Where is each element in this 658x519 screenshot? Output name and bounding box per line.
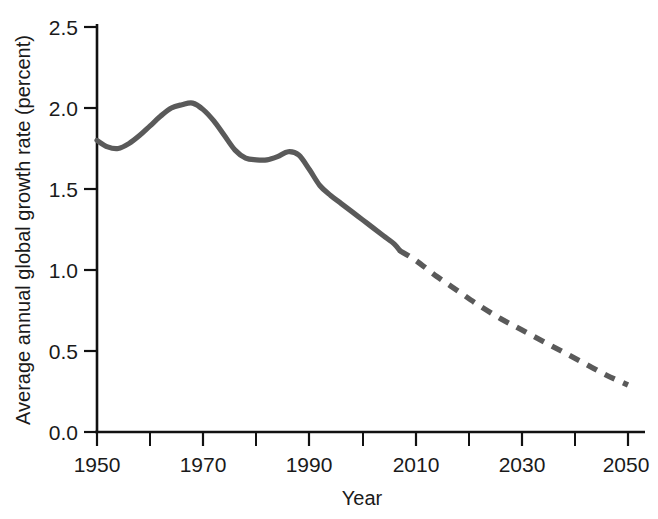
series-line-estimated (97, 103, 400, 251)
y-tick-label-5: 2.5 (49, 16, 78, 39)
y-tick-label-1: 0.5 (49, 340, 78, 363)
x-tick-label-1970: 1970 (180, 453, 227, 476)
y-axis-label: Average annual global growth rate (perce… (12, 35, 34, 425)
chart-svg: Average annual global growth rate (perce… (0, 0, 658, 519)
x-tick-label-2030: 2030 (499, 453, 546, 476)
x-tick-label-1990: 1990 (286, 453, 333, 476)
y-tick-label-2: 1.0 (49, 259, 78, 282)
y-tick-label-0: 0.0 (49, 421, 78, 444)
x-axis-label: Year (342, 487, 383, 509)
y-tick-label-3: 1.5 (49, 178, 78, 201)
y-tick-marks (84, 27, 97, 432)
x-tick-label-2010: 2010 (393, 453, 440, 476)
x-tick-marks-minor (150, 432, 575, 446)
growth-rate-line-chart: Average annual global growth rate (perce… (0, 0, 658, 519)
x-tick-label-2050: 2050 (603, 453, 650, 476)
series-line-projected (400, 251, 628, 385)
y-tick-label-4: 2.0 (49, 97, 78, 120)
x-tick-label-1950: 1950 (74, 453, 121, 476)
